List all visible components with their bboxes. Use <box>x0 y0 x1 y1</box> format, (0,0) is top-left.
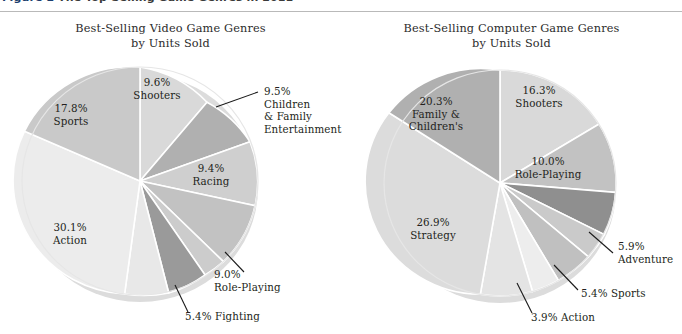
figure-root: Figure 2 The Top-Selling Game Genres in … <box>0 0 682 334</box>
label-action: 30.1% Action <box>32 221 108 246</box>
label-shooters: 9.6% Shooters <box>118 76 196 101</box>
label-adventure: 5.9% Adventure <box>618 240 682 265</box>
label-sports: 17.8% Sports <box>33 102 109 127</box>
label-family-children: 20.3% Family & Children's <box>389 95 483 133</box>
label-sports: 5.4% Sports <box>581 287 681 300</box>
label-role-playing: 10.0% Role-Playing <box>496 155 600 180</box>
label-strategy: 26.9% Strategy <box>391 216 475 241</box>
label-action: 3.9% Action <box>531 311 641 324</box>
panel-computer-games: Best-Selling Computer Game Genres by Uni… <box>341 0 682 334</box>
label-fighting: 5.4% Fighting <box>185 310 295 323</box>
label-racing: 9.4% Racing <box>176 162 246 187</box>
label-children-family: 9.5% Children & Family Entertainment <box>264 85 342 135</box>
label-role-playing: 9.0% Role-Playing <box>214 268 300 293</box>
panel-video-games: Best-Selling Video Game Genres by Units … <box>0 0 341 334</box>
label-shooters: 16.3% Shooters <box>499 84 579 109</box>
